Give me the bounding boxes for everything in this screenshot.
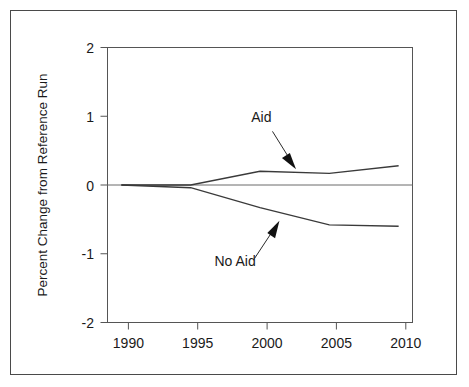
x-tick-label-1990: 1990 [113,335,144,351]
y-tick-label-minus2: -2 [82,315,95,331]
y-tick-label-2: 2 [86,40,94,56]
y-tick-label-minus1: -1 [82,246,95,262]
series-label-aid: Aid [251,109,271,125]
y-axis-title: Percent Change from Reference Run [35,74,50,297]
x-tick-label-2010: 2010 [390,335,421,351]
y-tick-label-1: 1 [86,109,94,125]
y-axis-ticks [101,48,108,323]
x-tick-label-2000: 2000 [252,335,283,351]
y-tick-label-0: 0 [86,178,94,194]
figure-container: 2 1 0 -1 -2 1990 1995 2000 2005 2010 Per… [0,0,469,387]
series-label-no-aid: No Aid [214,253,255,269]
x-tick-label-1995: 1995 [182,335,213,351]
x-tick-label-2005: 2005 [321,335,352,351]
x-axis-ticks [128,323,405,330]
line-chart: 2 1 0 -1 -2 1990 1995 2000 2005 2010 Per… [0,0,469,387]
